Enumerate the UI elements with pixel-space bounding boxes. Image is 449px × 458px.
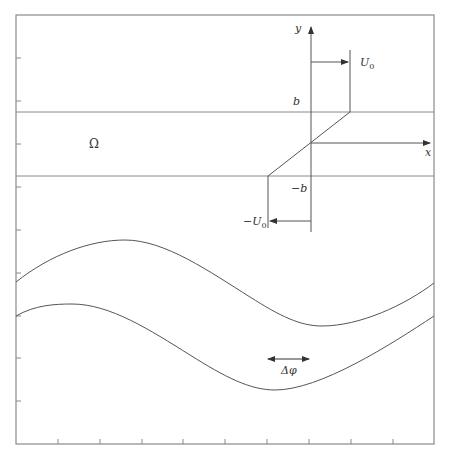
minus-u0-label: −U0 [243, 215, 267, 230]
velocity-profile [268, 50, 350, 228]
x-axis-label: x [425, 146, 432, 159]
plot-frame [16, 15, 434, 444]
omega-label: Ω [89, 137, 99, 151]
delta-phi-label: Δφ [280, 364, 297, 377]
left-ticks [16, 58, 21, 401]
b-label: b [293, 95, 300, 108]
upper-wave-curve [16, 240, 434, 326]
minus-b-label: −b [291, 182, 307, 195]
shear-layer-diagram: y x b −b U0 −U0 Ω Δφ [0, 0, 449, 458]
bottom-ticks [58, 439, 393, 444]
y-axis-label: y [294, 22, 302, 35]
u0-label: U0 [360, 56, 374, 71]
